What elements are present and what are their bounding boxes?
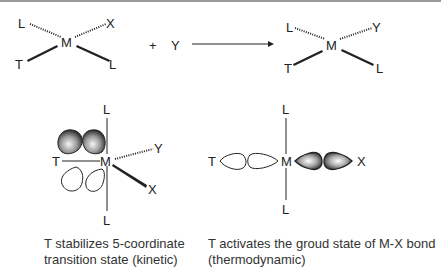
ligand-L-top: L (282, 102, 289, 117)
ligand-T: T (208, 154, 216, 169)
hashed-bond (30, 24, 61, 37)
transition-state-diagram: L L T M Y X (52, 102, 163, 228)
ligand-L: L (109, 57, 116, 72)
filled-orbital-lobe (58, 130, 82, 154)
caption-line: T activates the groud state of M-X bond (208, 236, 435, 252)
caption-line: (thermodynamic) (208, 252, 435, 268)
ground-state-diagram: L L T M X (208, 102, 366, 217)
reaction-arrow (192, 41, 274, 47)
ligand-L-bottom: L (282, 202, 289, 217)
metal-M: M (281, 154, 292, 169)
filled-orbital-lobe (324, 153, 352, 170)
ligand-L-bottom: L (103, 213, 110, 228)
ligand-T: T (15, 57, 23, 72)
ligand-X: X (357, 154, 366, 169)
ligand-X: X (148, 182, 157, 197)
reaction-diagram: L X M T L + Y L Y M T L L L T (0, 0, 441, 276)
ligand-Y: Y (372, 20, 381, 35)
empty-orbital-lobe (220, 153, 246, 169)
hashed-bond (75, 24, 106, 37)
filled-orbital-lobe (295, 153, 322, 170)
caption-kinetic: T stabilizes 5-coordinate transition sta… (44, 236, 185, 268)
caption-line: transition state (kinetic) (44, 252, 185, 268)
plus-sign: + (149, 38, 157, 53)
metal-M: M (326, 38, 337, 53)
ligand-L: L (286, 20, 293, 35)
wedge-bond (341, 49, 374, 66)
ligand-L: L (376, 61, 383, 76)
empty-orbital-lobe (61, 167, 82, 191)
filled-orbital-lobe (83, 130, 106, 154)
wedge-bond (27, 45, 58, 62)
caption-thermodynamic: T activates the groud state of M-X bond … (208, 236, 435, 268)
ligand-L-top: L (103, 102, 110, 117)
wedge-bond (293, 50, 323, 66)
hashed-bond-Y (115, 149, 153, 159)
caption-line: T stabilizes 5-coordinate (44, 236, 185, 252)
metal-M: M (100, 154, 111, 169)
empty-orbital-lobe (248, 153, 278, 168)
wedge-bond-X (112, 164, 147, 188)
ligand-L: L (18, 16, 25, 31)
wedge-bond (76, 45, 110, 62)
product-complex: L Y M T L (284, 20, 383, 76)
hashed-bond (340, 28, 372, 39)
reagent-Y: Y (171, 38, 180, 53)
hashed-bond (295, 28, 325, 39)
ligand-T: T (52, 154, 60, 169)
ligand-Y: Y (154, 141, 163, 156)
ligand-T: T (284, 61, 292, 76)
ligand-X: X (106, 16, 115, 31)
empty-orbital-lobe (86, 169, 105, 191)
metal-M: M (61, 35, 72, 50)
reactant-complex: L X M T L (15, 16, 116, 72)
